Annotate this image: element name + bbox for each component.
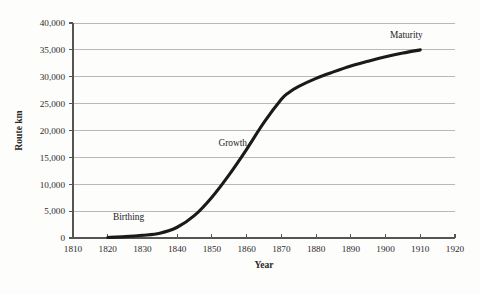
x-tick-label: 1870 (272, 244, 291, 254)
gridlines-group (73, 23, 455, 211)
series-line-route-km (108, 50, 421, 238)
x-tick-label: 1880 (307, 244, 326, 254)
x-tick-label: 1890 (342, 244, 361, 254)
y-tick-label: 40,000 (40, 18, 66, 28)
y-tick-label: 10,000 (40, 180, 66, 190)
chart-figure: 05,00010,00015,00020,00025,00030,00035,0… (0, 0, 480, 294)
x-tick-label: 1830 (133, 244, 152, 254)
y-tick-label: 20,000 (40, 126, 66, 136)
y-tick-label: 5,000 (44, 206, 65, 216)
x-axis-title: Year (254, 259, 274, 270)
x-tick-label: 1840 (168, 244, 187, 254)
x-tick-label: 1810 (64, 244, 83, 254)
y-tick-labels-group: 05,00010,00015,00020,00025,00030,00035,0… (40, 18, 66, 243)
x-tick-label: 1900 (376, 244, 395, 254)
annotation-maturity: Maturity (390, 30, 423, 40)
x-tick-label: 1820 (99, 244, 118, 254)
y-tick-label: 15,000 (40, 153, 66, 163)
x-tick-label: 1860 (237, 244, 256, 254)
x-tick-label: 1920 (446, 244, 465, 254)
data-series-group (108, 50, 421, 238)
y-axis-title: Route km (13, 110, 24, 150)
y-tick-label: 0 (60, 233, 65, 243)
y-tick-label: 25,000 (40, 99, 66, 109)
y-tick-label: 30,000 (40, 72, 66, 82)
x-tick-labels-group: 1810182018301840185018601870188018901900… (64, 244, 465, 254)
annotation-growth: Growth (218, 138, 247, 148)
x-tick-label: 1910 (411, 244, 430, 254)
x-tick-label: 1850 (203, 244, 222, 254)
annotation-birthing: Birthing (113, 212, 145, 222)
s-curve-line-chart: 05,00010,00015,00020,00025,00030,00035,0… (0, 0, 480, 294)
y-tick-label: 35,000 (40, 45, 66, 55)
